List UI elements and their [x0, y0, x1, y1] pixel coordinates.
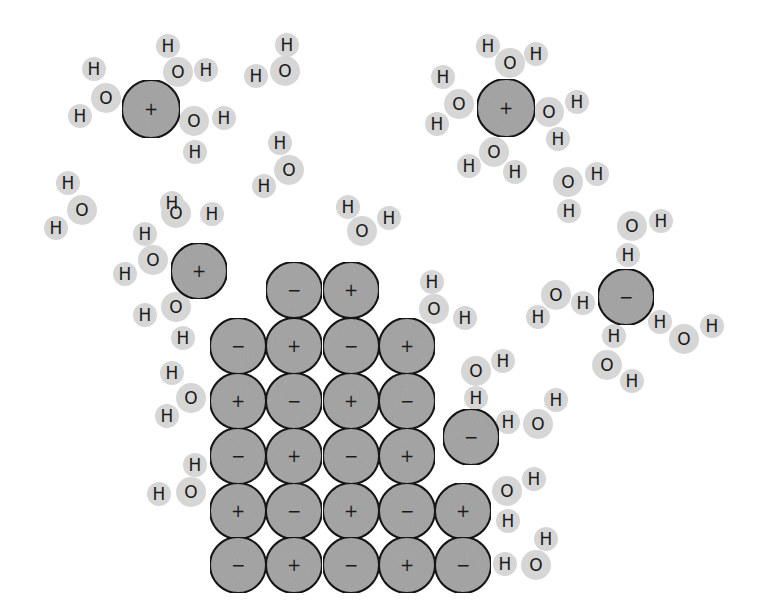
plus-sign-icon: +: [499, 98, 513, 118]
hydrated-anion: −: [443, 409, 499, 465]
water-molecule: HHO: [534, 90, 589, 151]
hydrogen-label: H: [530, 44, 543, 64]
water-molecule: HHO: [133, 292, 195, 350]
lattice-cation: +: [379, 318, 435, 374]
ionic-dissolution-diagram: HHOHHOHHOHHOHHOHHOHHOHHOHHOHHOHHOHHOHHOH…: [0, 0, 766, 606]
minus-sign-icon: −: [231, 555, 245, 575]
plus-sign-icon: +: [344, 501, 358, 521]
hydrogen-label: H: [622, 245, 635, 265]
water-molecule: HHO: [179, 106, 236, 164]
minus-sign-icon: −: [231, 446, 245, 466]
plus-sign-icon: +: [400, 446, 414, 466]
plus-sign-icon: +: [344, 391, 358, 411]
lattice-anion: −: [210, 318, 266, 374]
water-molecule: HHO: [244, 33, 300, 88]
oxygen-label: O: [500, 481, 513, 501]
hydrated-cation: +: [122, 80, 180, 138]
water-molecule: HHO: [44, 171, 97, 240]
plus-sign-icon: +: [144, 99, 158, 119]
hydrogen-label: H: [654, 312, 667, 332]
water-molecule: HHO: [492, 467, 546, 533]
water-molecule: HHO: [493, 527, 558, 580]
water-molecule: HHO: [553, 162, 609, 223]
hydrogen-label: H: [437, 67, 450, 87]
oxygen-label: O: [625, 216, 638, 236]
hydrogen-label: H: [550, 390, 563, 410]
water-molecule: HHO: [156, 34, 218, 87]
water-molecule: HHO: [419, 270, 477, 330]
oxygen-label: O: [469, 361, 482, 381]
oxygen-label: O: [529, 555, 542, 575]
plus-sign-icon: +: [231, 501, 245, 521]
minus-sign-icon: −: [400, 501, 414, 521]
hydrogen-label: H: [655, 211, 668, 231]
water-molecule: HHO: [147, 453, 207, 507]
hydrogen-label: H: [509, 162, 522, 182]
water-molecule: HHO: [461, 349, 515, 410]
minus-sign-icon: −: [344, 336, 358, 356]
plus-sign-icon: +: [400, 336, 414, 356]
hydrogen-label: H: [608, 326, 621, 346]
oxygen-label: O: [282, 160, 295, 180]
hydrogen-label: H: [552, 129, 565, 149]
plus-sign-icon: +: [287, 336, 301, 356]
lattice-anion: −: [210, 537, 266, 593]
hydrogen-label: H: [431, 114, 444, 134]
water-molecule: HHO: [457, 137, 527, 184]
oxygen-label: O: [503, 53, 516, 73]
lattice-anion: −: [323, 537, 379, 593]
hydrogen-label: H: [166, 363, 179, 383]
oxygen-label: O: [278, 61, 291, 81]
hydrogen-label: H: [153, 484, 166, 504]
lattice-cation: +: [435, 483, 491, 539]
lattice-cation: +: [266, 428, 322, 484]
minus-sign-icon: −: [344, 446, 358, 466]
oxygen-label: O: [561, 172, 574, 192]
lattice-anion: −: [266, 373, 322, 429]
hydrogen-label: H: [459, 308, 472, 328]
lattice-anion: −: [435, 537, 491, 593]
oxygen-label: O: [531, 414, 544, 434]
minus-sign-icon: −: [464, 427, 478, 447]
hydrogen-label: H: [74, 106, 87, 126]
hydrated-cation: +: [477, 79, 535, 137]
hydrogen-label: H: [563, 201, 576, 221]
hydrogen-label: H: [189, 142, 202, 162]
lattice-anion: −: [210, 428, 266, 484]
oxygen-label: O: [549, 285, 562, 305]
hydrogen-label: H: [281, 35, 294, 55]
water-molecule: HHO: [496, 388, 568, 439]
minus-sign-icon: −: [400, 391, 414, 411]
hydrated-anion: −: [598, 269, 654, 325]
water-molecule: HHO: [476, 34, 548, 78]
hydrogen-label: H: [342, 197, 355, 217]
lattice-anion: −: [266, 483, 322, 539]
oxygen-label: O: [171, 62, 184, 82]
hydrogen-label: H: [177, 328, 190, 348]
water-molecule: HHO: [592, 324, 644, 393]
plus-sign-icon: +: [400, 555, 414, 575]
minus-sign-icon: −: [287, 391, 301, 411]
hydrogen-label: H: [206, 204, 219, 224]
water-molecule: HHO: [616, 209, 673, 267]
water-molecule: HHO: [252, 131, 304, 198]
oxygen-label: O: [169, 297, 182, 317]
lattice-anion: −: [379, 373, 435, 429]
lattice-cation: +: [379, 428, 435, 484]
lattice-anion: −: [323, 428, 379, 484]
water-molecule: HHO: [113, 222, 168, 286]
oxygen-label: O: [184, 388, 197, 408]
oxygen-label: O: [146, 250, 159, 270]
hydrogen-label: H: [162, 36, 175, 56]
hydrogen-label: H: [218, 108, 231, 128]
hydrogen-label: H: [499, 554, 512, 574]
lattice-cation: +: [379, 537, 435, 593]
oxygen-label: O: [452, 94, 465, 114]
hydrogen-label: H: [591, 164, 604, 184]
oxygen-label: O: [427, 299, 440, 319]
water-molecule: HHO: [336, 195, 401, 246]
hydrogen-label: H: [189, 455, 202, 475]
hydrogen-label: H: [497, 351, 510, 371]
hydrogen-label: H: [383, 208, 396, 228]
hydrogen-label: H: [426, 272, 439, 292]
